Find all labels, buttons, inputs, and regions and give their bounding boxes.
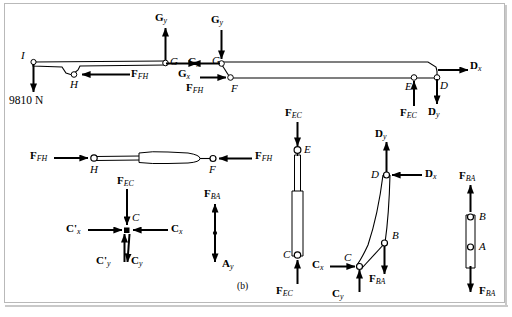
member-EC-cylinder: [292, 152, 303, 256]
pin-H-member: [91, 155, 97, 161]
label-point-G-lower: G: [212, 55, 220, 66]
lower-boom-GFED: [222, 62, 437, 78]
force-Cx-link-symbol: C: [312, 258, 320, 270]
force-Cxp-label: C'x: [66, 223, 81, 236]
force-Dx-boom-symbol: D: [470, 59, 478, 71]
force-FEC-member-top-symbol: F: [285, 106, 292, 118]
force-Cy-joint-symbol: C: [131, 254, 139, 266]
force-Cyp-label: C'y: [96, 255, 111, 268]
force-FEC-member-top-sub: EC: [292, 111, 302, 120]
label-point-H-boom: H: [70, 79, 78, 90]
force-Gx-upper-sub: x: [187, 72, 191, 81]
pin-D-link: [384, 172, 390, 178]
pin-B-link: [382, 240, 388, 246]
force-FEC-joint-symbol: F: [117, 174, 124, 186]
label-point-B-member: B: [479, 211, 486, 222]
force-Cy-link-symbol: C: [332, 287, 340, 299]
force-FBA-member-top-symbol: F: [459, 169, 466, 181]
force-Cyp-symbol: C': [96, 254, 107, 266]
force-Gy-lower-label: Gy: [211, 14, 223, 27]
pin-E-boom: [411, 75, 417, 81]
label-point-D-boom: D: [440, 80, 448, 91]
force-FEC-member-top-label: FEC: [285, 107, 302, 120]
label-point-C-member: C: [283, 249, 290, 260]
label-point-I: I: [21, 50, 25, 61]
force-FEC-at-E-sub: EC: [407, 111, 417, 120]
label-point-C-link: C: [344, 252, 351, 263]
force-Gx-lower-label: Gx: [188, 56, 200, 69]
force-FEC-at-E-symbol: F: [400, 106, 407, 118]
node-A-dot: [213, 231, 217, 235]
force-Cx-joint-sub: x: [179, 227, 183, 236]
force-FBA-pinA-label: FBA: [204, 188, 220, 201]
force-FBA-member-bottom-symbol: F: [479, 284, 486, 296]
force-FFH-member-left-label: FFH: [30, 150, 47, 163]
force-FEC-member-bottom-label: FEC: [276, 285, 293, 298]
force-FBA-member-bottom-sub: BA: [486, 289, 496, 298]
force-FBA-link-label: FBA: [369, 273, 385, 286]
label-point-B-link: B: [392, 230, 399, 241]
force-Dy-boom-sub: y: [436, 110, 440, 119]
force-FFH-at-H-sub: FH: [138, 72, 149, 81]
pin-H: [71, 72, 77, 78]
pin-E-member: [294, 147, 301, 154]
force-FFH-at-F-label: FFH: [186, 82, 203, 95]
force-Cx-link-label: Cx: [312, 259, 323, 272]
label-point-F-boom: F: [231, 83, 238, 94]
force-Cy-joint-sub: y: [139, 259, 143, 268]
force-Dx-link-sub: x: [433, 172, 437, 181]
force-FFH-member-right-symbol: F: [255, 149, 262, 161]
force-FEC-member-bottom-symbol: F: [276, 284, 283, 296]
force-FEC-joint-sub: EC: [124, 179, 134, 188]
label-load-9810N: 9810 N: [9, 95, 43, 107]
label-point-F-member: F: [209, 164, 216, 175]
pin-F-boom: [228, 75, 234, 81]
force-Cx-joint-symbol: C: [171, 222, 179, 234]
force-FBA-link-symbol: F: [369, 272, 376, 284]
force-Ay-label: Ay: [222, 258, 233, 271]
force-FFH-member-right-sub: FH: [262, 154, 273, 163]
force-FBA-member-top-label: FBA: [459, 170, 475, 183]
label-point-A-member: A: [479, 241, 486, 252]
force-Gx-lower-symbol: G: [188, 55, 197, 67]
label-point-H-member: H: [90, 164, 98, 175]
force-Dy-boom-label: Dy: [428, 106, 439, 119]
force-FFH-member-left-sub: FH: [37, 154, 48, 163]
force-Gx-upper-symbol: G: [178, 67, 187, 79]
force-FFH-at-H-label: FFH: [131, 68, 148, 81]
force-Dy-link-symbol: D: [375, 127, 383, 139]
force-FBA-link-sub: BA: [376, 277, 386, 286]
force-Dy-link-sub: y: [383, 132, 387, 141]
force-FEC-member-bottom-sub: EC: [283, 289, 293, 298]
label-point-E-member: E: [304, 144, 311, 155]
force-Gy-lower-symbol: G: [211, 13, 220, 25]
free-body-diagram-figure: I 9810 N H G Gy Gx FFH Gy Gx G FFH F E F…: [0, 0, 512, 317]
force-Dy-link-label: Dy: [375, 128, 386, 141]
figure-caption: (b): [237, 281, 248, 291]
force-Cy-link-label: Cy: [332, 288, 343, 301]
force-Dx-boom-sub: x: [478, 64, 482, 73]
force-FFH-at-H-symbol: F: [131, 67, 138, 79]
node-C-dot: [124, 228, 130, 234]
pin-B-member: [468, 214, 474, 220]
force-Gy-upper-symbol: G: [155, 11, 164, 23]
force-Cx-joint-label: Cx: [171, 223, 182, 236]
force-Cy-joint-label: Cy: [131, 255, 142, 268]
force-FEC-joint-label: FEC: [117, 175, 134, 188]
arrow-Cyp-down: [128, 234, 130, 262]
force-Gx-lower-sub: x: [197, 60, 201, 69]
force-FFH-member-right-label: FFH: [255, 150, 272, 163]
force-Ay-sub: y: [230, 262, 234, 271]
force-Dx-link-label: Dx: [425, 168, 436, 181]
pin-A-member: [468, 244, 474, 250]
force-Gy-upper-sub: y: [164, 16, 168, 25]
force-Ay-symbol: A: [222, 257, 230, 269]
joint-C-freebody: [88, 189, 168, 262]
pin-C-link: [357, 264, 363, 270]
force-FBA-pinA-sub: BA: [211, 192, 221, 201]
force-Dx-link-symbol: D: [425, 167, 433, 179]
force-Dx-boom-label: Dx: [470, 60, 481, 73]
pin-F-member: [210, 156, 216, 162]
force-FEC-at-E-label: FEC: [400, 107, 417, 120]
force-Gx-upper-label: Gx: [178, 68, 190, 81]
